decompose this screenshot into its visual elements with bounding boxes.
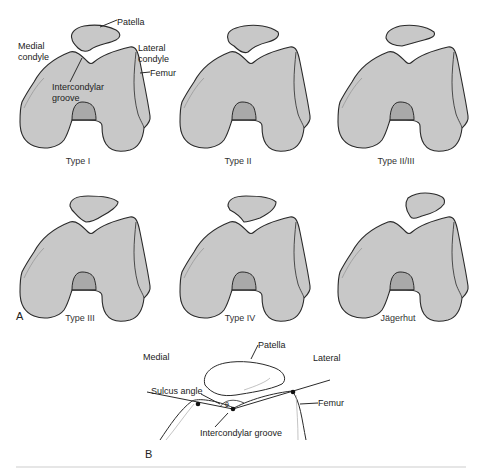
label-b-lateral: Lateral	[313, 353, 341, 363]
label-medial-condyle-2: condyle	[18, 52, 49, 62]
label-b-groove: Intercondylar groove	[200, 428, 282, 438]
label-b-sulcus-angle: Sulcus angle	[151, 386, 203, 396]
panel-a-label: A	[16, 310, 23, 322]
label-lateral-condyle-1: Lateral	[138, 43, 166, 53]
label-patella: Patella	[117, 17, 145, 27]
femur-type-iv	[180, 196, 310, 321]
femur-type-ii-iii	[338, 25, 468, 151]
femur-jagerhut	[338, 193, 468, 321]
label-b-theta: θ	[225, 400, 229, 410]
panel-b-label: B	[145, 448, 152, 460]
patella-classification-diagram	[0, 0, 480, 469]
type-label-i: Type I	[28, 156, 128, 166]
femur-type-ii	[180, 25, 310, 151]
label-femur: Femur	[150, 68, 176, 78]
caption-remnant	[16, 466, 466, 468]
label-medial-condyle-1: Medial	[18, 41, 45, 51]
label-intercondylar-1: Intercondylar	[52, 82, 104, 92]
type-label-ii: Type II	[188, 156, 288, 166]
label-b-femur: Femur	[318, 398, 344, 408]
type-label-jagerhut: Jägerhut	[348, 313, 448, 323]
label-lateral-condyle-2: condyle	[138, 54, 169, 64]
label-intercondylar-2: groove	[52, 93, 80, 103]
label-b-patella: Patella	[258, 340, 286, 350]
femur-type-iii	[20, 196, 150, 321]
label-b-medial: Medial	[143, 352, 170, 362]
type-label-ii-iii: Type II/III	[346, 156, 446, 166]
type-label-iii: Type III	[30, 313, 130, 323]
type-label-iv: Type IV	[190, 313, 290, 323]
